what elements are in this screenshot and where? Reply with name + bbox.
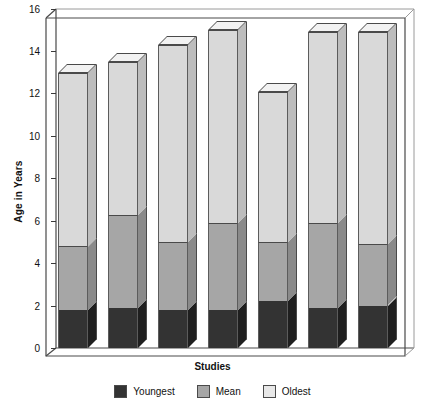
- bar-segment-youngest: [108, 308, 138, 348]
- y-tick-label-16: 16: [18, 5, 40, 15]
- bar-segment-oldest: [208, 30, 238, 223]
- bar-column: [58, 73, 88, 348]
- legend-item-oldest: Oldest: [263, 385, 311, 398]
- stacked-bar-chart: Age in Years 16 14 12 10 8 6 4 2 0 Studi…: [0, 0, 425, 409]
- bar-column: [158, 45, 188, 348]
- y-tick-label-10: 10: [18, 132, 40, 142]
- bar-segment-oldest: [358, 32, 388, 244]
- bar-side-mean: [188, 233, 197, 310]
- bar-segment-youngest: [258, 301, 288, 348]
- y-tick-label-4: 4: [18, 259, 40, 269]
- bar-side-mean: [338, 214, 347, 308]
- legend-label-oldest: Oldest: [282, 387, 311, 397]
- bar-segment-oldest: [108, 62, 138, 215]
- bar-side-mean: [238, 214, 247, 310]
- bar-side-oldest: [388, 23, 397, 244]
- bar-column: [108, 62, 138, 348]
- chart-legend: Youngest Mean Oldest: [0, 385, 425, 398]
- bar-segment-mean: [158, 242, 188, 310]
- bar-side-youngest: [288, 292, 297, 348]
- plot-area: [46, 0, 417, 352]
- bar-column: [258, 92, 288, 348]
- y-tick-label-0: 0: [18, 344, 40, 354]
- bar-segment-mean: [258, 242, 288, 301]
- bar-side-mean: [288, 233, 297, 301]
- y-tick-label-12: 12: [18, 89, 40, 99]
- legend-swatch-oldest: [263, 385, 276, 398]
- bar-segment-youngest: [158, 310, 188, 348]
- legend-label-mean: Mean: [216, 387, 241, 397]
- bar-side-oldest: [138, 53, 147, 215]
- legend-item-youngest: Youngest: [114, 385, 174, 398]
- legend-label-youngest: Youngest: [133, 387, 174, 397]
- bar-side-mean: [138, 206, 147, 308]
- bar-segment-mean: [108, 215, 138, 308]
- y-tick-label-6: 6: [18, 217, 40, 227]
- bar-segment-mean: [358, 244, 388, 305]
- bar-segment-youngest: [208, 310, 238, 348]
- y-tick-label-8: 8: [18, 174, 40, 184]
- x-axis-title: Studies: [0, 361, 425, 372]
- bar-side-youngest: [388, 297, 397, 348]
- bar-side-oldest: [338, 23, 347, 223]
- bar-segment-oldest: [58, 73, 88, 247]
- bar-side-oldest: [288, 83, 297, 242]
- bar-side-oldest: [238, 21, 247, 223]
- bar-side-oldest: [88, 64, 97, 247]
- bar-column: [358, 32, 388, 348]
- bar-segment-oldest: [308, 32, 338, 223]
- bar-column: [208, 30, 238, 348]
- bar-segment-youngest: [308, 308, 338, 348]
- bar-column: [308, 32, 338, 348]
- bar-side-mean: [88, 237, 97, 310]
- bar-side-oldest: [188, 36, 197, 242]
- bar-segment-youngest: [58, 310, 88, 348]
- y-tick-label-14: 14: [18, 47, 40, 57]
- legend-swatch-youngest: [114, 385, 127, 398]
- bar-segment-youngest: [358, 306, 388, 348]
- bar-segment-oldest: [158, 45, 188, 242]
- bar-segment-oldest: [258, 92, 288, 242]
- bar-segment-mean: [208, 223, 238, 310]
- y-tick-label-2: 2: [18, 302, 40, 312]
- legend-item-mean: Mean: [197, 385, 241, 398]
- y-axis-title: Age in Years: [13, 132, 24, 252]
- bar-segment-mean: [58, 246, 88, 310]
- legend-swatch-mean: [197, 385, 210, 398]
- bar-segment-mean: [308, 223, 338, 308]
- bar-side-mean: [388, 235, 397, 305]
